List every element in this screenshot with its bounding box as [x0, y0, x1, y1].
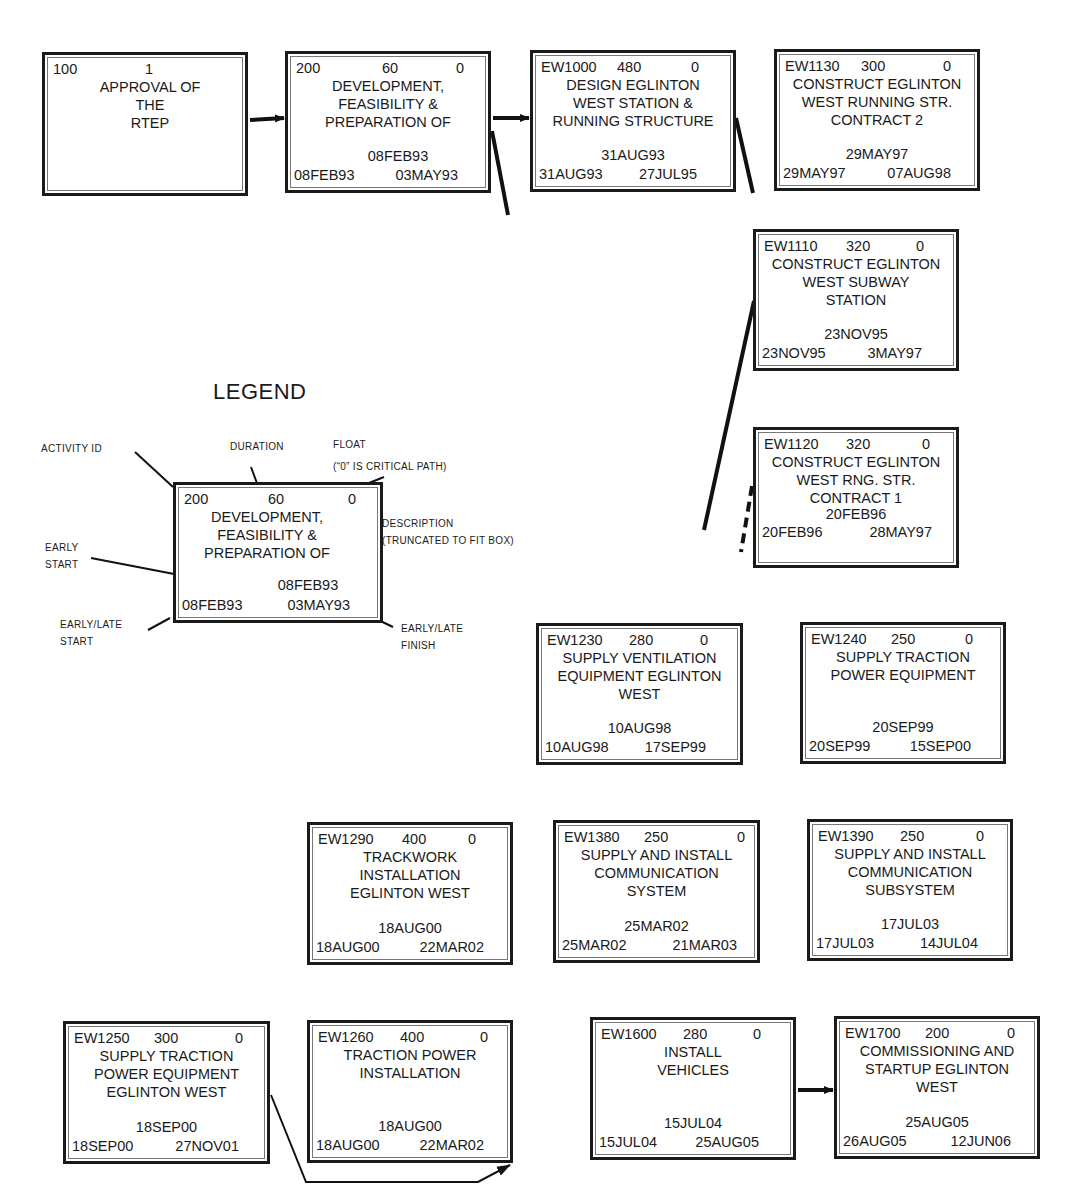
early-start: 10AUG98 — [539, 720, 740, 737]
activity-float: 0 — [691, 59, 699, 76]
activity-id: EW1110 — [764, 238, 817, 255]
activity-duration: 280 — [629, 632, 653, 649]
activity-node-200[interactable]: 200600 DEVELOPMENT, FEASIBILITY & PREPAR… — [285, 51, 491, 193]
activity-description: SUPPLY AND INSTALL COMMUNICATION SUBSYST… — [814, 845, 1006, 899]
activity-id: EW1230 — [547, 632, 603, 649]
activity-float: 0 — [943, 58, 951, 75]
activity-float: 0 — [480, 1029, 488, 1046]
early-late-finish: 22MAR02 — [420, 939, 484, 956]
early-late-finish: 14JUL04 — [920, 935, 978, 952]
activity-duration: 320 — [846, 238, 870, 255]
activity-description: SUPPLY TRACTION POWER EQUIPMENT — [807, 648, 999, 684]
link-to-ew1120 — [741, 486, 752, 552]
early-late-start: 08FEB93 — [294, 167, 354, 184]
activity-id: EW1390 — [818, 828, 874, 845]
activity-id: 200 — [296, 60, 320, 77]
early-late-start: 20FEB96 — [762, 524, 822, 541]
activity-id: EW1260 — [318, 1029, 374, 1046]
callout-early-late-finish: EARLY/LATE FINISH — [401, 620, 463, 654]
callout-early-start: EARLY START — [45, 539, 79, 573]
early-late-finish: 28MAY97 — [869, 524, 932, 541]
activity-node-ew1250[interactable]: EW12503000 SUPPLY TRACTION POWER EQUIPME… — [63, 1021, 270, 1164]
link-200-down — [492, 131, 508, 215]
arrow-100-to-200 — [250, 118, 284, 120]
early-start: 29MAY97 — [777, 146, 977, 163]
early-late-finish: 15SEP00 — [910, 738, 971, 755]
activity-node-ew1130[interactable]: EW11303000 CONSTRUCT EGLINTON WEST RUNNI… — [774, 49, 980, 191]
activity-duration: 60 — [268, 491, 284, 508]
activity-float: 0 — [235, 1030, 243, 1047]
activity-id: EW1600 — [601, 1026, 657, 1043]
callout-early-late-start: EARLY/LATE START — [60, 616, 122, 650]
early-late-finish: 21MAR03 — [673, 937, 737, 954]
activity-id: 100 — [53, 61, 77, 78]
activity-description: DEVELOPMENT, FEASIBILITY & PREPARATION O… — [180, 508, 354, 562]
activity-id: EW1240 — [811, 631, 867, 648]
activity-duration: 320 — [846, 436, 870, 453]
activity-description: COMMISSIONING AND STARTUP EGLINTON WEST — [841, 1042, 1033, 1096]
early-start: 25MAR02 — [556, 918, 757, 935]
activity-description: APPROVAL OF THE RTEP — [85, 78, 215, 132]
activity-node-ew1120[interactable]: EW11203200 CONSTRUCT EGLINTON WEST RNG. … — [753, 427, 959, 568]
activity-node-ew1000[interactable]: EW10004800 DESIGN EGLINTON WEST STATION … — [530, 50, 736, 192]
early-late-start: 18SEP00 — [72, 1138, 133, 1155]
activity-description: SUPPLY TRACTION POWER EQUIPMENT EGLINTON… — [70, 1047, 263, 1101]
early-late-start: 29MAY97 — [783, 165, 846, 182]
early-start: 25AUG05 — [837, 1114, 1037, 1131]
early-late-start: 18AUG00 — [316, 939, 380, 956]
activity-id: 200 — [184, 491, 208, 508]
activity-node-ew1260[interactable]: EW12604000 TRACTION POWER INSTALLATION 1… — [307, 1020, 513, 1163]
early-late-finish: 27NOV01 — [175, 1138, 239, 1155]
activity-node-ew1700[interactable]: EW17002000 COMMISSIONING AND STARTUP EGL… — [834, 1016, 1040, 1159]
activity-duration: 250 — [900, 828, 924, 845]
activity-node-100[interactable]: 1001 APPROVAL OF THE RTEP — [42, 52, 248, 196]
callout-float: FLOAT (“0” IS CRITICAL PATH) — [333, 434, 447, 478]
early-late-finish: 07AUG98 — [887, 165, 951, 182]
activity-description: TRACKWORK INSTALLATION EGLINTON WEST — [314, 848, 506, 902]
activity-id: EW1250 — [74, 1030, 130, 1047]
activity-duration: 250 — [891, 631, 915, 648]
activity-node-ew1110[interactable]: EW11103200 CONSTRUCT EGLINTON WEST SUBWA… — [753, 229, 959, 371]
early-late-finish: 03MAY93 — [395, 167, 458, 184]
activity-node-ew1600[interactable]: EW16002800 INSTALL VEHICLES 15JUL04 15JU… — [590, 1017, 796, 1160]
legend-sample-node: 200600 DEVELOPMENT, FEASIBILITY & PREPAR… — [173, 482, 383, 623]
activity-node-ew1230[interactable]: EW12302800 SUPPLY VENTILATION EQUIPMENT … — [536, 623, 743, 765]
activity-float: 0 — [976, 828, 984, 845]
activity-id: EW1000 — [541, 59, 597, 76]
early-late-start: 18AUG00 — [316, 1137, 380, 1154]
early-late-start: 20SEP99 — [809, 738, 870, 755]
activity-duration: 400 — [402, 831, 426, 848]
activity-node-ew1290[interactable]: EW12904000 TRACKWORK INSTALLATION EGLINT… — [307, 822, 513, 965]
early-start: 23NOV95 — [756, 326, 956, 343]
activity-id: EW1380 — [564, 829, 620, 846]
activity-id: EW1130 — [785, 58, 840, 75]
activity-node-ew1380[interactable]: EW13802500 SUPPLY AND INSTALL COMMUNICAT… — [553, 820, 760, 963]
activity-float: 0 — [456, 60, 464, 77]
early-late-start: 26AUG05 — [843, 1133, 907, 1150]
early-start: 15JUL04 — [593, 1115, 793, 1132]
early-late-start: 31AUG93 — [539, 166, 603, 183]
activity-id: EW1700 — [845, 1025, 901, 1042]
activity-description: SUPPLY VENTILATION EQUIPMENT EGLINTON WE… — [543, 649, 736, 703]
legend-title: LEGEND — [213, 379, 306, 405]
activity-node-ew1390[interactable]: EW13902500 SUPPLY AND INSTALL COMMUNICAT… — [807, 819, 1013, 961]
activity-id: EW1120 — [764, 436, 819, 453]
callout-line-early-late-start — [148, 618, 170, 630]
activity-description: DESIGN EGLINTON WEST STATION & RUNNING S… — [537, 76, 729, 130]
activity-node-ew1240[interactable]: EW12402500 SUPPLY TRACTION POWER EQUIPME… — [800, 622, 1006, 764]
activity-duration: 480 — [617, 59, 641, 76]
callout-activity-id: ACTIVITY ID — [41, 440, 102, 457]
callout-description: DESCRIPTION (TRUNCATED TO FIT BOX) — [382, 515, 514, 549]
activity-float: 0 — [737, 829, 745, 846]
activity-description: INSTALL VEHICLES — [597, 1043, 789, 1079]
early-late-start: 25MAR02 — [562, 937, 626, 954]
activity-duration: 400 — [400, 1029, 424, 1046]
early-start: 18AUG00 — [310, 1118, 510, 1135]
activity-description: DEVELOPMENT, FEASIBILITY & PREPARATION O… — [292, 77, 484, 131]
early-late-finish: 22MAR02 — [420, 1137, 484, 1154]
early-start: 20SEP99 — [803, 719, 1003, 736]
early-start: 08FEB93 — [308, 148, 488, 165]
early-late-finish: 25AUG05 — [695, 1134, 759, 1151]
activity-description: CONSTRUCT EGLINTON WEST SUBWAY STATION — [760, 255, 952, 309]
activity-duration: 300 — [861, 58, 885, 75]
